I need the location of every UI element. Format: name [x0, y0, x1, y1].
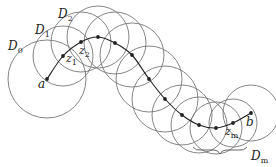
label-zm: zm	[224, 125, 239, 140]
point-7	[163, 97, 167, 101]
point-10	[214, 126, 218, 130]
label-a: a	[38, 77, 45, 91]
point-1	[61, 54, 65, 58]
disk-chain-diagram: D0 D1 D2 a z1 z2 zm b Dm	[0, 0, 276, 167]
point-0	[45, 77, 49, 81]
point-6	[147, 77, 151, 81]
point-11	[231, 121, 235, 125]
label-z2: z2	[78, 44, 90, 59]
label-D2: D2	[57, 7, 73, 23]
point-8	[180, 113, 184, 117]
point-9	[197, 123, 201, 127]
label-z1: z1	[65, 52, 77, 67]
point-5	[130, 53, 134, 57]
point-3	[96, 35, 100, 39]
point-4	[113, 41, 117, 45]
label-Dm: Dm	[250, 149, 269, 165]
label-b: b	[246, 115, 254, 129]
label-D1: D1	[34, 23, 50, 39]
label-D0: D0	[7, 39, 23, 55]
